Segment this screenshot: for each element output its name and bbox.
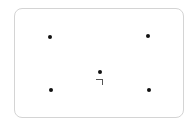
dot-center — [98, 70, 102, 74]
corner-bracket-icon — [96, 79, 103, 85]
dot-card — [14, 8, 184, 118]
dot-top-right — [146, 34, 150, 38]
dot-top-left — [48, 35, 52, 39]
dot-bottom-right — [147, 88, 151, 92]
dot-bottom-left — [49, 88, 53, 92]
